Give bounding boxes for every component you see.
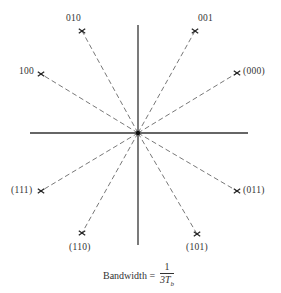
radial-dashed-line <box>41 74 138 133</box>
point-label: (111) <box>11 186 32 196</box>
radial-dashed-line <box>138 73 237 133</box>
bandwidth-caption: Bandwidth = 1 3Tb <box>103 262 174 288</box>
point-label: 001 <box>198 14 213 24</box>
point-label: 100 <box>19 67 34 77</box>
fraction-numerator: 1 <box>163 262 172 272</box>
point-label: 010 <box>66 14 81 24</box>
radial-dashed-line <box>138 31 195 133</box>
constellation-plot <box>0 0 281 293</box>
radial-dashed-line <box>82 31 138 133</box>
bandwidth-label: Bandwidth = <box>103 270 155 281</box>
fraction-denominator: 3Tb <box>160 275 174 288</box>
origin-dot <box>136 131 140 135</box>
point-label: (000) <box>243 67 265 77</box>
point-label: (110) <box>69 243 91 253</box>
radial-dashed-line <box>41 133 138 191</box>
point-label: (011) <box>243 186 265 196</box>
bandwidth-fraction: 1 3Tb <box>160 262 174 288</box>
radial-dashed-line <box>82 133 138 233</box>
point-label: (101) <box>186 243 208 253</box>
radial-dashed-line <box>138 133 237 191</box>
radial-dashed-line <box>138 133 197 234</box>
